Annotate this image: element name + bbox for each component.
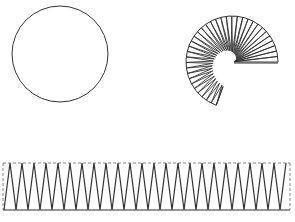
zigzag-line (4, 163, 286, 210)
circle-shape (12, 6, 108, 102)
drawing-canvas (0, 0, 295, 222)
spiral-fan-shape (186, 16, 278, 105)
zigzag-strip-shape (3, 163, 290, 210)
